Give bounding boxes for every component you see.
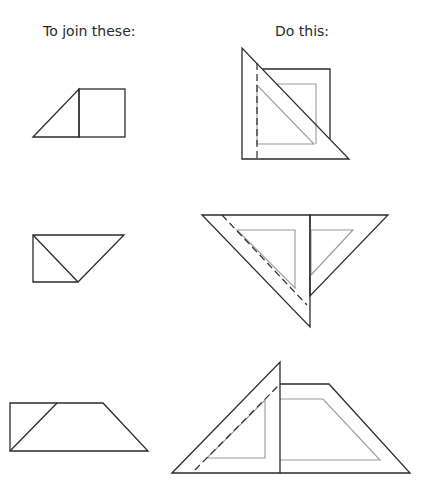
row1-set-square-outer xyxy=(242,48,349,159)
row2-set-square-outer xyxy=(202,215,310,327)
row3-set-square-outer xyxy=(172,362,280,473)
row2-outline xyxy=(33,235,124,282)
row3-trapezoid-inner xyxy=(280,399,380,460)
row1-solution xyxy=(242,48,349,159)
row1-square-inner xyxy=(277,84,316,144)
row3-diagonal xyxy=(10,403,57,451)
row1-triangle xyxy=(33,89,79,137)
row3-solution xyxy=(172,362,410,473)
row2-solution xyxy=(202,215,388,327)
row1-square xyxy=(79,89,125,137)
row2-right-triangle-outer xyxy=(310,215,388,296)
row2-set-square-inner xyxy=(237,230,295,288)
row2-dashed-guide xyxy=(222,215,307,305)
instruction-diagram xyxy=(0,0,438,496)
row2-right-triangle-inner xyxy=(311,230,353,275)
row2-pieces xyxy=(33,235,124,282)
row1-pieces xyxy=(33,89,125,137)
row2-diagonal xyxy=(33,235,78,282)
row3-pieces xyxy=(10,403,148,451)
row3-outline xyxy=(10,403,148,451)
